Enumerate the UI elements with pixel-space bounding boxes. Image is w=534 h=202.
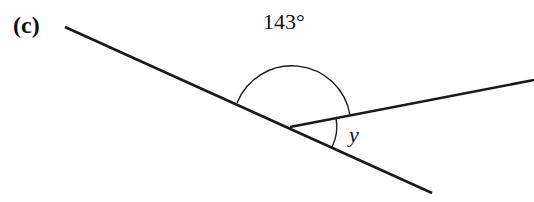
part-label: (c) [13,12,40,39]
angle-y-arc [332,118,337,147]
ray-line [290,80,534,127]
angle-y-label: y [349,122,359,148]
obtuse-angle-arc [237,66,350,115]
angle-143-label: 143° [263,9,305,35]
angle-diagram: (c) 143° y [0,0,534,202]
